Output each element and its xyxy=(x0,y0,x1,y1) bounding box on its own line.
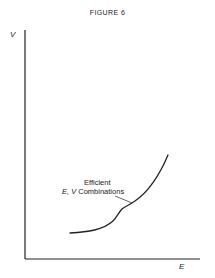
annotation-efficient: Efficient xyxy=(84,178,111,187)
annotation-leader-line xyxy=(115,196,132,203)
annotation-combinations: Combinations xyxy=(76,187,124,196)
plot-area xyxy=(0,0,215,278)
annotation-ev-combinations: E, V Combinations xyxy=(62,187,124,196)
annotation-ev-symbol: E, V xyxy=(62,187,76,196)
